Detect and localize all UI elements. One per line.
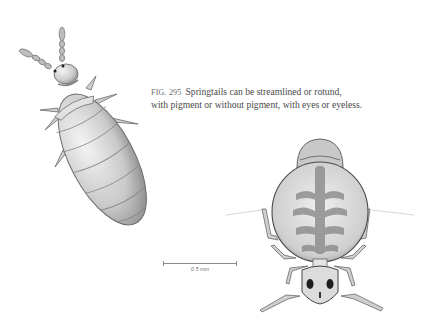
caption-text-1: Springtails can be streamlined or rotund… [186, 86, 342, 97]
caption-line-1: FIG. 295Springtails can be streamlined o… [151, 86, 436, 99]
illustration-canvas [0, 0, 439, 329]
eye-icon [54, 70, 57, 73]
scale-bar: 0.5 mm [163, 260, 237, 274]
eye-icon [307, 279, 314, 289]
scale-bar-label: 0.5 mm [163, 266, 237, 272]
antenna-left [18, 47, 52, 69]
figure-number: FIG. 295 [151, 88, 182, 97]
eye-icon [327, 279, 334, 289]
caption-line-2: with pigment or without pigment, with ey… [151, 99, 436, 111]
streamlined-springtail-illustration [18, 27, 164, 238]
eye-icon [62, 65, 65, 68]
scale-bar-line [163, 263, 237, 264]
rotund-springtail-illustration [226, 139, 414, 312]
antenna-right [59, 27, 65, 62]
head [54, 64, 79, 85]
figure-caption: FIG. 295Springtails can be streamlined o… [151, 86, 436, 111]
